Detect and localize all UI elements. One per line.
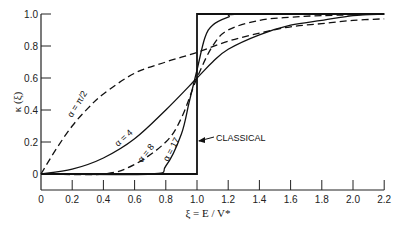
y-tick-label: 1.0 [24,9,38,20]
x-tick-label: 0.2 [65,194,79,205]
x-tick-label: 1.8 [315,194,329,205]
label-alpha-pi2: α = π/2 [65,89,89,119]
classical-annotation: CLASSICAL [198,133,266,143]
curve-2 [41,19,384,174]
y-tick-label: 0.8 [24,41,38,52]
y-tick-label: 0 [32,169,38,180]
x-tick-label: 1.4 [252,194,266,205]
label-classical: CLASSICAL [216,133,266,143]
y-tick-label: 0.2 [24,137,38,148]
x-tick-label: 2.0 [346,194,360,205]
x-tick-label: 0 [38,194,44,205]
x-tick-label: 0.6 [128,194,142,205]
x-tick-label: 1.2 [221,194,235,205]
curve-17 [41,14,384,175]
y-axis-title: κ (ξ) [11,91,24,112]
curve-4 [41,14,384,174]
curves [41,14,384,175]
y-tick-label: 0.6 [24,73,38,84]
x-tick-label: 0.8 [159,194,173,205]
curve-classical [41,14,384,174]
chart-figure: 00.20.40.60.81.000.20.40.60.81.01.21.41.… [0,0,400,228]
plot-area: 00.20.40.60.81.000.20.40.60.81.01.21.41.… [0,0,400,228]
curve-8 [41,14,384,175]
x-tick-label: 1.0 [190,194,204,205]
label-alpha-4: α = 4 [113,127,135,148]
label-alpha-17: α = 17 [161,136,182,163]
x-tick-label: 2.2 [377,194,391,205]
x-tick-label: 0.4 [96,194,110,205]
x-tick-label: 1.6 [284,194,298,205]
y-tick-label: 0.4 [24,105,38,116]
x-axis-title: ξ = E / V* [185,207,230,220]
